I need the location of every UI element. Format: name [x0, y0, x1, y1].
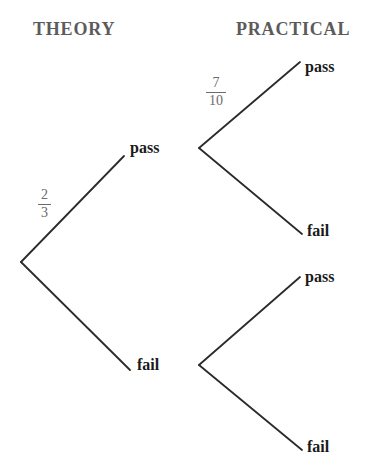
fraction-denominator: 3 — [38, 204, 51, 221]
column-header-theory: THEORY — [33, 19, 115, 40]
branch-theory-fail-to-leaf-4 — [199, 365, 302, 450]
branch-theory-fail-to-leaf-3 — [199, 277, 300, 365]
column-header-practical: PRACTICAL — [236, 19, 350, 40]
fraction-denominator: 10 — [206, 92, 226, 109]
node-label-practical-fail-after-pass: fail — [307, 223, 329, 239]
tree-diagram-canvas: THEORY PRACTICAL pass fail pass fail pas… — [0, 0, 376, 476]
node-label-theory-pass: pass — [130, 140, 159, 156]
node-label-practical-fail-after-fail: fail — [307, 439, 329, 455]
node-label-practical-pass-after-pass: pass — [305, 59, 334, 75]
node-label-practical-pass-after-fail: pass — [305, 269, 334, 285]
node-label-theory-fail: fail — [137, 357, 159, 373]
fraction-numerator: 7 — [206, 76, 226, 92]
branch-root-to-theory-pass — [21, 156, 124, 262]
probability-fraction-theory-pass: 2 3 — [38, 188, 51, 220]
fraction-numerator: 2 — [38, 188, 51, 204]
probability-fraction-practical-pass-after-pass: 7 10 — [206, 76, 226, 108]
branch-theory-pass-to-leaf-2 — [199, 148, 302, 234]
branch-root-to-theory-fail — [21, 262, 130, 370]
